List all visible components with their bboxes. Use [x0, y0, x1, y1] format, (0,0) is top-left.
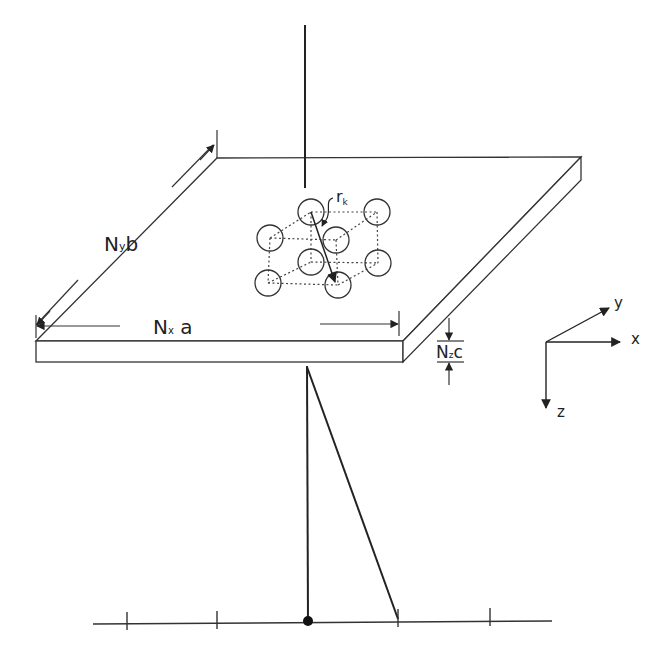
transmitted-beam [307, 366, 308, 621]
crystal-slab [36, 157, 581, 362]
crystal-diffraction-diagram: rk Nyb Nx a Nzc [0, 0, 663, 657]
nz-dimension: Nzc [436, 318, 464, 385]
z-axis-label: z [557, 403, 565, 421]
ny-b-label: Nyb [104, 232, 138, 256]
coordinate-axes: x y z [546, 294, 640, 421]
y-axis-arrow [546, 308, 609, 342]
slab-front-face [36, 341, 403, 362]
central-spot [303, 616, 313, 626]
nz-c-label: Nzc [436, 342, 463, 362]
detector-line [93, 608, 552, 630]
exit-beams [307, 366, 398, 621]
x-axis-label: x [631, 330, 640, 348]
y-axis-label: y [614, 294, 623, 312]
diffracted-beam [307, 367, 398, 619]
